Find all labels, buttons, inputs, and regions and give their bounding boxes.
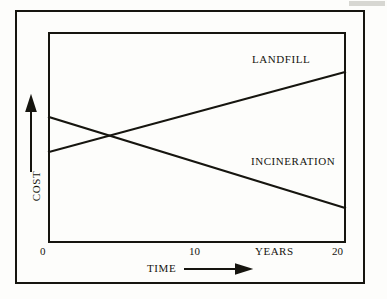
xaxis-units-label: YEARS <box>255 245 294 257</box>
xaxis-tick-label-20: 20 <box>332 245 343 257</box>
yaxis-title: COST <box>30 164 42 208</box>
series-annotation-landfill: LANDFILL <box>252 53 310 65</box>
xaxis-tick-label-10: 10 <box>189 245 200 257</box>
series-annotation-incineration: INCINERATION <box>251 155 335 167</box>
xaxis-title: TIME <box>147 262 176 274</box>
figure-container: LANDFILL INCINERATION 0 10 20 YEARS TIME… <box>0 0 387 299</box>
series-line-landfill <box>49 72 345 152</box>
up-arrow-icon <box>27 97 36 172</box>
xaxis-tick-label-0: 0 <box>40 245 46 257</box>
right-arrow-icon <box>184 265 250 274</box>
